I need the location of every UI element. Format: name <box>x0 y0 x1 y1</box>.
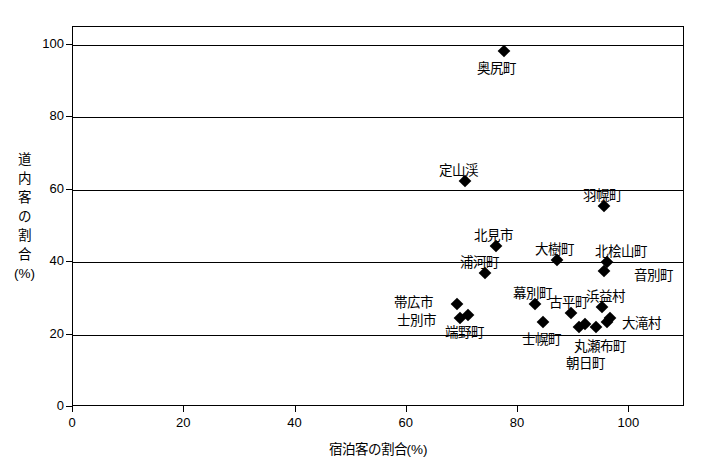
data-point-label: 士別市 <box>73 313 436 328</box>
y-tick-mark <box>66 334 72 335</box>
data-point-label: 古平町 <box>73 295 727 310</box>
y-tick-mark <box>66 44 72 45</box>
scatter-chart: 奥尻町定山渓羽幌町北見市大樹町北桧山町音別町浦河町幕別町帯広市浜益村古平町端野町… <box>0 0 727 463</box>
y-tick-mark <box>66 261 72 262</box>
x-tick-label: 0 <box>42 416 102 429</box>
x-tick-label: 20 <box>153 416 213 429</box>
data-point-label: 北見市 <box>73 228 727 243</box>
x-tick-mark <box>295 406 296 412</box>
data-point-label: 定山渓 <box>73 163 727 178</box>
y-tick-label: 100 <box>26 37 64 50</box>
data-point-label: 音別町 <box>634 268 673 283</box>
gridline-y <box>73 45 683 46</box>
gridline-y <box>73 117 683 118</box>
data-point-label: 大滝村 <box>622 316 661 331</box>
data-point-label: 奥尻町 <box>73 61 727 76</box>
x-tick-label: 60 <box>376 416 436 429</box>
y-tick-mark <box>66 189 72 190</box>
data-point-label: 丸瀬布町 <box>73 339 727 354</box>
data-point-marker <box>498 44 511 57</box>
y-tick-label: 0 <box>26 399 64 412</box>
x-tick-label: 40 <box>265 416 325 429</box>
x-tick-mark <box>183 406 184 412</box>
x-tick-label: 80 <box>487 416 547 429</box>
data-point-label: 羽幌町 <box>73 188 727 203</box>
plot-area: 奥尻町定山渓羽幌町北見市大樹町北桧山町音別町浦河町幕別町帯広市浜益村古平町端野町… <box>72 26 684 406</box>
data-point-label: 浦河町 <box>73 255 727 270</box>
data-point-label: 朝日町 <box>73 356 727 371</box>
x-axis-title: 宿泊客の割合(%) <box>72 438 684 458</box>
y-axis-title: 道内客の割合(%) <box>14 150 34 283</box>
x-tick-mark <box>72 406 73 412</box>
y-tick-label: 20 <box>26 327 64 340</box>
x-tick-label: 100 <box>598 416 658 429</box>
y-tick-mark <box>66 116 72 117</box>
x-tick-mark <box>406 406 407 412</box>
x-tick-mark <box>628 406 629 412</box>
x-tick-mark <box>517 406 518 412</box>
y-tick-label: 80 <box>26 109 64 122</box>
